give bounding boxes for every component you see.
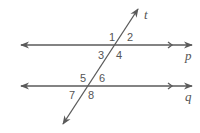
parallel-lines-transversal-diagram: t p q 1 2 3 4 5 6 7 8 xyxy=(0,0,200,133)
line-q xyxy=(21,83,192,89)
angle-label-5: 5 xyxy=(80,72,86,84)
angle-label-7: 7 xyxy=(69,89,75,101)
angle-label-3: 3 xyxy=(98,49,104,61)
angle-label-8: 8 xyxy=(88,89,94,101)
label-t: t xyxy=(144,7,148,22)
line-t xyxy=(63,9,138,124)
label-q: q xyxy=(185,89,192,104)
angle-label-1: 1 xyxy=(109,31,115,43)
line-p xyxy=(21,42,192,48)
angle-label-6: 6 xyxy=(99,72,105,84)
label-p: p xyxy=(184,48,192,63)
angle-label-2: 2 xyxy=(127,31,133,43)
angle-label-4: 4 xyxy=(116,49,122,61)
